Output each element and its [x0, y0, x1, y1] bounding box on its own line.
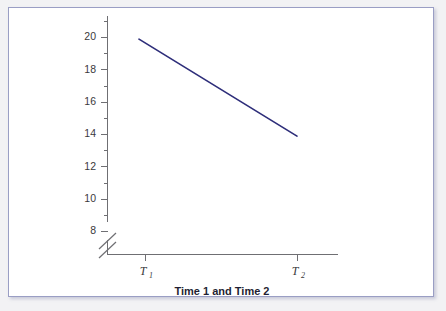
x-axis-group: T 1 T 2 Time 1 and Time 2: [107, 255, 338, 298]
x-tick-label-T2: T 2: [292, 264, 305, 280]
x-tick-label-T1-text: T: [140, 264, 148, 278]
y-tick-label-12: 12: [84, 160, 96, 172]
y-axis-group: 20 18 16 14 12 10 8: [84, 16, 116, 258]
y-tick-label-10: 10: [84, 192, 96, 204]
x-tick-label-T1-sub: 1: [149, 271, 153, 280]
y-tick-label-18: 18: [84, 63, 96, 75]
x-axis-title: Time 1 and Time 2: [175, 285, 270, 297]
data-series-group: [139, 39, 297, 136]
x-tick-label-T1: T 1: [140, 264, 153, 280]
figure-root: 20 18 16 14 12 10 8 T 1 T 2: [0, 0, 446, 311]
y-tick-label-20: 20: [84, 30, 96, 42]
y-tick-label-16: 16: [84, 95, 96, 107]
y-tick-label-8: 8: [90, 224, 96, 236]
data-line-mean-score: [139, 39, 297, 136]
x-tick-label-T2-text: T: [292, 264, 300, 278]
x-tick-label-T2-sub: 2: [301, 271, 305, 280]
line-chart: 20 18 16 14 12 10 8 T 1 T 2: [0, 0, 446, 311]
y-tick-label-14: 14: [84, 127, 96, 139]
